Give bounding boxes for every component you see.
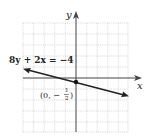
- x-axis: [23, 75, 142, 81]
- point-label-numerator: 1: [65, 87, 69, 93]
- point-label-prefix: (0, −: [40, 91, 60, 100]
- point-label-suffix: ): [70, 91, 73, 100]
- x-axis-label: x: [137, 80, 143, 91]
- equation-label: 8y + 2x = −4: [9, 55, 74, 65]
- y-axis: [73, 11, 79, 132]
- coordinate-graph: y x 8y + 2x = −4 (0, − 1 2 ): [0, 0, 151, 139]
- point-label-denominator: 2: [65, 95, 69, 101]
- y-axis-label: y: [65, 9, 72, 20]
- y-intercept-point: [74, 80, 78, 84]
